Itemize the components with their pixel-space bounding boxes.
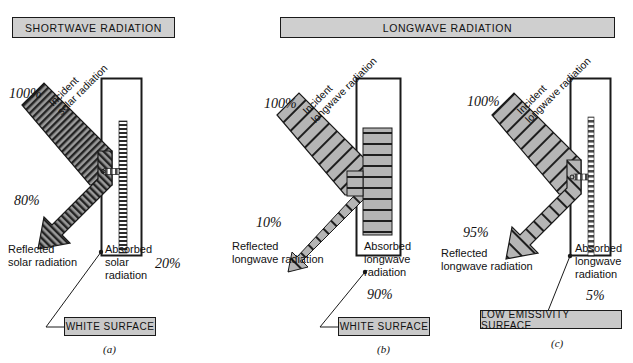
panel-c-incident-label: Incident longwave radiation <box>514 46 593 125</box>
panel-c-reflected-label: Reflected longwave radiation <box>441 247 533 273</box>
panel-a-reflected-arrow <box>38 151 112 249</box>
panel-b-incident-percent: 100% <box>264 96 297 112</box>
panel-c-reflected-percent: 95% <box>463 225 489 241</box>
panel-c-incident-percent: 100% <box>467 94 500 110</box>
panel-a-reflected-percent: 80% <box>14 193 40 209</box>
panel-b-letter: (b) <box>377 343 390 355</box>
panel-b-reflected-percent: 10% <box>256 215 282 231</box>
panel-a-absorbed-label: Absorbed solar radiation <box>105 243 152 282</box>
panel-c-absorbed-label: Absorbed longwave radiation <box>575 242 622 281</box>
panel-b-incident-label: Incident longwave radiation <box>300 46 379 125</box>
radiation-diagram-figure: SHORTWAVE RADIATION LONGWAVE RADIATION 1… <box>0 0 633 363</box>
panel-a-incident-percent: 100% <box>9 86 42 102</box>
panel-b-surface-box <box>357 79 401 256</box>
panel-b-surface-box-label: WHITE SURFACE <box>338 317 430 336</box>
panel-a-surface-box <box>102 79 142 256</box>
banner-longwave-label: LONGWAVE RADIATION <box>383 22 513 34</box>
banner-shortwave-label: SHORTWAVE RADIATION <box>25 22 162 34</box>
panel-a-absorbed-arrow <box>101 121 127 253</box>
panel-a-reflected-label: Reflected solar radiation <box>8 243 77 269</box>
panel-b-absorbed-arrow <box>347 128 392 235</box>
panel-b-surface-text: WHITE SURFACE <box>340 321 429 332</box>
panel-c-absorbed-arrow <box>570 117 594 256</box>
panel-c-letter: (c) <box>551 337 563 349</box>
panel-a-incident-label: Incident solar radiation <box>46 53 110 117</box>
panel-b-absorbed-label: Absorbed longwave radiation <box>364 240 411 279</box>
panel-a-surface-text: WHITE SURFACE <box>66 321 155 332</box>
panel-c-surface-pointer <box>546 254 572 316</box>
panel-c-surface-box-label: LOW EMISSIVITY SURFACE <box>480 310 622 329</box>
panel-b-absorbed-percent: 90% <box>367 287 393 303</box>
panel-a-absorbed-percent: 20% <box>155 256 181 272</box>
panel-a-letter: (a) <box>103 343 116 355</box>
banner-longwave: LONGWAVE RADIATION <box>280 17 615 38</box>
panel-b-reflected-label: Reflected longwave radiation <box>232 240 324 266</box>
banner-shortwave: SHORTWAVE RADIATION <box>12 17 175 38</box>
panel-c-reflected-arrow <box>506 160 581 259</box>
panel-c-surface-box <box>571 79 611 256</box>
panel-c-surface-text: LOW EMISSIVITY SURFACE <box>481 309 621 331</box>
panel-a-surface-box-label: WHITE SURFACE <box>64 317 156 336</box>
panel-c-absorbed-percent: 5% <box>586 288 605 304</box>
